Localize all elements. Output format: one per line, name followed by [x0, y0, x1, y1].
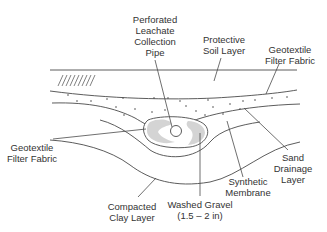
label-washed-gravel: Washed Gravel (1.5 – 2 in) [164, 199, 236, 221]
sand-dots [67, 94, 288, 116]
soil-hatching [58, 75, 95, 86]
leader-protective-soil [214, 58, 221, 81]
label-protective-soil-layer: Protective Soil Layer [196, 34, 252, 56]
leader-synthetic-membrane [227, 121, 243, 177]
perforated-pipe [171, 126, 182, 137]
label-perforated-leachate-collection-pipe: Perforated Leachate Collection Pipe [126, 14, 184, 58]
gravel-trench [144, 117, 208, 148]
label-compacted-clay-layer: Compacted Clay Layer [104, 201, 160, 223]
leader-sand-drainage [244, 108, 288, 150]
label-sand-drainage-layer: Sand Drainage Layer [270, 152, 316, 185]
label-synthetic-membrane: Synthetic Membrane [222, 176, 274, 198]
label-geotextile-filter-fabric-top: Geotextile Filter Fabric [258, 44, 322, 66]
geotextile-filter-fabric-line [50, 90, 297, 99]
leader-geotextile-top [266, 64, 279, 94]
leader-compacted-clay [138, 178, 156, 197]
leader-geotextile-left [53, 129, 146, 139]
label-geotextile-filter-fabric-left: Geotextile Filter Fabric [4, 142, 60, 164]
